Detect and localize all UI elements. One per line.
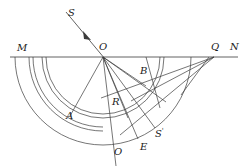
- label-N: N: [230, 42, 239, 52]
- label-S-incident: S: [68, 8, 75, 18]
- label-O-center: O: [99, 42, 107, 52]
- label-S-prime-base: S: [155, 128, 162, 139]
- chord-B-down: [146, 57, 160, 108]
- optics-diagram-figure: M O Q N S A B R E O S': [0, 0, 246, 166]
- label-S-prime-mark: ': [162, 127, 164, 135]
- label-Q-top: Q: [211, 42, 219, 52]
- label-M: M: [17, 43, 27, 53]
- label-E: E: [140, 142, 147, 152]
- chord-group: [146, 57, 160, 108]
- ray-Q-down-left: [120, 57, 214, 135]
- ray-Q-to-focus: [131, 57, 214, 101]
- arrow-head-triangle: [83, 31, 91, 40]
- label-O-bottom: O: [114, 147, 122, 157]
- diagram-canvas: [0, 0, 246, 166]
- label-S-prime: S': [155, 129, 164, 139]
- ray-O-A: [70, 57, 103, 116]
- label-B: B: [140, 66, 147, 76]
- label-A: A: [66, 111, 73, 121]
- label-R: R: [112, 97, 120, 107]
- ray-Q-vertical: [181, 57, 209, 95]
- incident-ray-arrowhead: [83, 31, 91, 40]
